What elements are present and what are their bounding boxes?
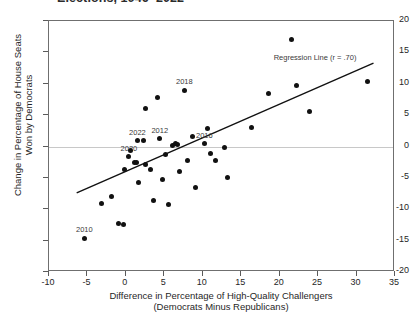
- data-point: [307, 109, 312, 114]
- x-tick-label-4: 10: [182, 277, 222, 287]
- x-tick-label-3: 5: [143, 277, 183, 287]
- data-point-label-2016: 2016: [196, 130, 213, 139]
- data-point: [225, 175, 230, 180]
- x-tick-label-5: 15: [220, 277, 260, 287]
- data-point: [122, 167, 127, 172]
- x-tick-label-1: -5: [66, 277, 106, 287]
- data-point-label-2022: 2022: [129, 127, 146, 136]
- data-point: [143, 162, 148, 167]
- x-tick-label-7: 25: [297, 277, 337, 287]
- data-point-label-2018: 2018: [176, 77, 193, 86]
- data-point: [160, 177, 165, 182]
- data-point: [294, 83, 299, 88]
- data-point: [163, 152, 168, 157]
- data-point: [141, 138, 146, 143]
- regression-annotation: Regression Line (r = .70): [274, 53, 357, 62]
- x-tick-label-0: -10: [28, 277, 68, 287]
- x-tick-4: [202, 271, 203, 276]
- data-point-label-2010: 2010: [76, 225, 93, 234]
- data-point: [213, 158, 218, 163]
- x-tick-5: [240, 271, 241, 276]
- x-axis-label-line-1: Difference in Percentage of High-Quality…: [48, 290, 394, 301]
- data-point: [116, 221, 121, 226]
- x-tick-2: [125, 271, 126, 276]
- y-axis-label-line-2: Won by Democrats: [23, 75, 34, 156]
- plot-area: 201020202022201220182016 Regression Line…: [48, 20, 394, 271]
- data-point: [190, 134, 195, 139]
- x-tick-3: [163, 271, 164, 276]
- x-axis-label: Difference in Percentage of High-Quality…: [48, 290, 394, 312]
- y-axis-label-line-1: Change in Percentage of House Seats: [12, 34, 23, 196]
- x-tick-label-9: 35: [374, 277, 414, 287]
- x-axis-label-line-2: (Democrats Minus Republicans): [48, 301, 394, 312]
- x-tick-6: [279, 271, 280, 276]
- chart-title: Elections, 1946–2022: [57, 0, 184, 5]
- x-tick-label-6: 20: [259, 277, 299, 287]
- data-point: [99, 201, 104, 206]
- x-tick-9: [394, 271, 395, 276]
- data-point: [208, 151, 213, 156]
- data-point: [182, 88, 187, 93]
- x-tick-8: [356, 271, 357, 276]
- x-tick-label-8: 30: [336, 277, 376, 287]
- y-axis-label: Change in Percentage of House Seats Won …: [12, 15, 34, 215]
- data-point: [175, 142, 180, 147]
- data-point-label-2012: 2012: [151, 125, 168, 134]
- x-tick-0: [48, 271, 49, 276]
- data-point: [155, 95, 160, 100]
- data-point: [109, 194, 114, 199]
- data-point: [136, 180, 141, 185]
- data-point: [185, 158, 190, 163]
- data-point: [148, 167, 153, 172]
- x-tick-label-2: 0: [105, 277, 145, 287]
- data-point: [365, 79, 370, 84]
- x-tick-7: [317, 271, 318, 276]
- data-point: [151, 198, 156, 203]
- x-tick-1: [86, 271, 87, 276]
- data-point: [82, 236, 87, 241]
